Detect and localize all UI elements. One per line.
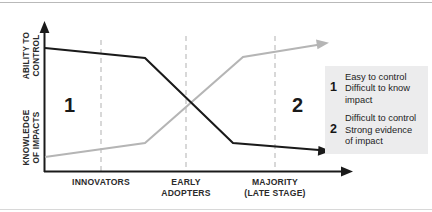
legend-panel: 1 Easy to control Difficult to know impa… <box>325 66 428 154</box>
y-axis-label-ability-to-control: ABILITY TO CONTROL <box>22 18 41 94</box>
ability-curve-line <box>45 48 322 150</box>
x-axis-arrowhead <box>341 167 353 177</box>
x-axis-tick-innovators: INNOVATORS <box>61 177 141 188</box>
zone-label-1: 1 <box>64 95 75 115</box>
x-axis-tick-early-adopters: EARLY ADOPTERS <box>146 177 226 199</box>
legend-marker-1: 1 <box>330 72 340 93</box>
legend-entry-1: 1 Easy to control Difficult to know impa… <box>330 72 424 106</box>
knowledge-curve-line <box>45 45 320 158</box>
legend-marker-2: 2 <box>330 113 340 135</box>
zone-label-2: 2 <box>292 95 303 115</box>
legend-text-1: Easy to control Difficult to know impact <box>345 72 410 106</box>
legend-text-2: Difficult to control Strong evidence of … <box>345 113 416 147</box>
legend-entry-2: 2 Difficult to control Strong evidence o… <box>330 113 424 147</box>
x-axis-tick-majority: MAJORITY (LATE STAGE) <box>233 177 317 199</box>
knowledge-curve-arrowhead <box>316 40 329 50</box>
diagram-canvas: ABILITY TO CONTROL KNOWLEDGE OF IMPACTS … <box>0 0 432 212</box>
ability-to-control-curve <box>45 48 331 156</box>
y-axis-label-knowledge-of-impacts: KNOWLEDGE OF IMPACTS <box>22 94 41 182</box>
